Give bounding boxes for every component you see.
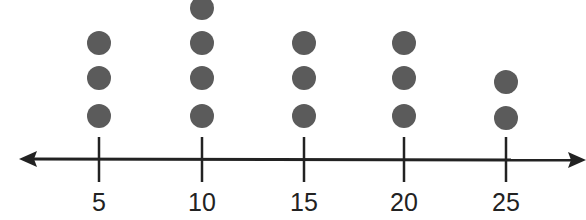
tick-label: 20 — [390, 188, 418, 216]
data-dot — [392, 31, 416, 55]
data-dot — [494, 106, 518, 130]
data-dot — [87, 104, 111, 128]
data-dot — [292, 66, 316, 90]
data-dot — [190, 66, 214, 90]
dot-plot: 510152025 — [0, 0, 586, 220]
data-dot — [87, 66, 111, 90]
data-dot — [190, 104, 214, 128]
data-dot — [392, 66, 416, 90]
data-dot — [494, 70, 518, 94]
data-dot — [392, 104, 416, 128]
data-dot — [292, 104, 316, 128]
tick-label: 5 — [92, 188, 106, 216]
number-line — [19, 151, 586, 168]
tick-label: 25 — [492, 188, 520, 216]
dots — [87, 0, 518, 130]
tick-label: 15 — [290, 188, 318, 216]
tick-label: 10 — [188, 188, 216, 216]
data-dot — [190, 0, 214, 20]
tick-labels: 510152025 — [92, 188, 520, 216]
data-dot — [190, 31, 214, 55]
data-dot — [292, 31, 316, 55]
data-dot — [87, 31, 111, 55]
